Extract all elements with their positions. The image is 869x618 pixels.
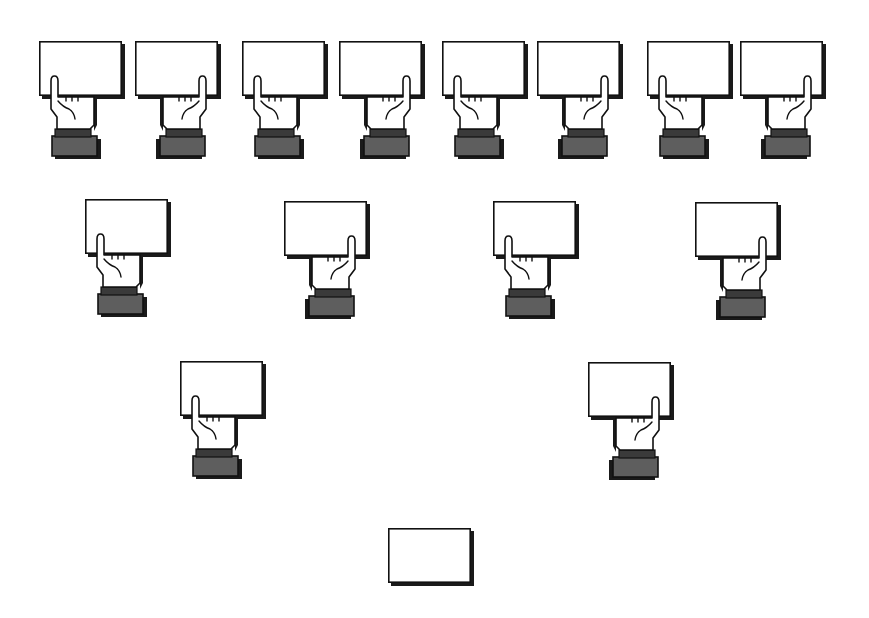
sleeve-cuff-icon [720, 297, 765, 317]
sleeve-cuff-icon [193, 456, 238, 476]
card-bracket-diagram [0, 0, 869, 618]
sleeve-cuff-icon [455, 136, 500, 156]
card-rectangle [389, 529, 470, 582]
held-card [442, 41, 534, 161]
sleeve-band [370, 129, 406, 137]
held-card [493, 201, 585, 321]
held-card [284, 201, 376, 321]
sleeve-band [509, 289, 545, 297]
sleeve-cuff-icon [160, 136, 205, 156]
sleeve-cuff-icon [613, 457, 658, 477]
held-card [242, 41, 334, 161]
sleeve-band [258, 129, 294, 137]
sleeve-band [726, 290, 762, 298]
sleeve-cuff-icon [98, 294, 143, 314]
sleeve-band [196, 449, 232, 457]
held-card [180, 361, 272, 481]
sleeve-cuff-icon [255, 136, 300, 156]
held-card [647, 41, 739, 161]
sleeve-band [663, 129, 699, 137]
sleeve-band [619, 450, 655, 458]
held-card [39, 41, 131, 161]
sleeve-band [101, 287, 137, 295]
held-card [588, 362, 680, 482]
sleeve-cuff-icon [562, 136, 607, 156]
sleeve-cuff-icon [765, 136, 810, 156]
held-card [740, 41, 832, 161]
sleeve-cuff-icon [660, 136, 705, 156]
sleeve-band [568, 129, 604, 137]
sleeve-cuff-icon [309, 296, 354, 316]
held-card [537, 41, 629, 161]
held-card [135, 41, 227, 161]
sleeve-band [315, 289, 351, 297]
sleeve-cuff-icon [52, 136, 97, 156]
sleeve-band [166, 129, 202, 137]
held-card [339, 41, 431, 161]
sleeve-cuff-icon [364, 136, 409, 156]
sleeve-cuff-icon [506, 296, 551, 316]
held-card [695, 202, 787, 322]
held-card [85, 199, 177, 319]
final-card [388, 528, 480, 618]
sleeve-band [771, 129, 807, 137]
sleeve-band [55, 129, 91, 137]
sleeve-band [458, 129, 494, 137]
